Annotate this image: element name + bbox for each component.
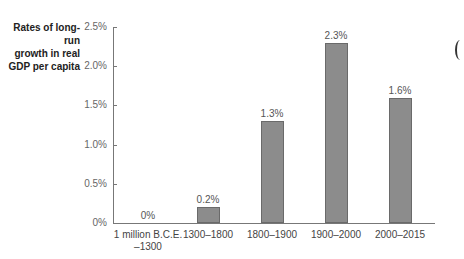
x-category-label-line: 2000–2015 — [360, 229, 440, 241]
bar — [325, 43, 348, 223]
y-tick-label: 0% — [93, 217, 107, 228]
y-tick — [113, 184, 117, 185]
x-category-label-line: –1300 — [108, 241, 188, 253]
y-axis-title-line: GDP per capita — [0, 60, 80, 73]
y-axis — [113, 27, 114, 224]
y-tick — [113, 145, 117, 146]
bar-value-label: 1.6% — [380, 85, 420, 96]
bar — [389, 98, 412, 223]
bar-value-label: 0% — [128, 210, 168, 221]
x-axis — [113, 223, 435, 224]
y-axis-title-line: growth in real — [0, 47, 80, 60]
bar — [197, 207, 220, 223]
y-tick — [113, 66, 117, 67]
y-tick — [113, 27, 117, 28]
y-tick-label: 0.5% — [84, 178, 107, 189]
bar-value-label: 0.2% — [188, 194, 228, 205]
y-tick-label: 1.5% — [84, 99, 107, 110]
y-axis-title: Rates of long-run growth in real GDP per… — [0, 21, 80, 73]
edge-arc-decoration — [455, 40, 464, 60]
y-tick-label: 2.0% — [84, 60, 107, 71]
bar — [261, 121, 284, 223]
x-category-label: 2000–2015 — [360, 229, 440, 241]
y-axis-title-line: Rates of long-run — [0, 21, 80, 47]
y-tick-label: 2.5% — [84, 21, 107, 32]
y-tick — [113, 105, 117, 106]
bar-value-label: 2.3% — [316, 30, 356, 41]
y-tick-label: 1.0% — [84, 139, 107, 150]
bar-value-label: 1.3% — [252, 108, 292, 119]
y-tick — [113, 223, 117, 224]
